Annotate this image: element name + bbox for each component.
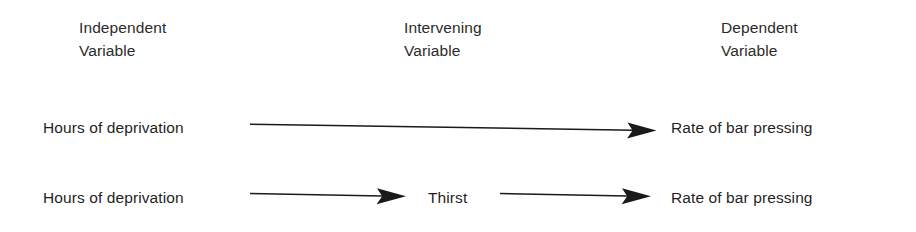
column-header-dependent-variable: Dependent Variable xyxy=(721,16,798,62)
arrow-head-icon xyxy=(627,122,657,138)
arrow-row2-intervening-to-dependent xyxy=(500,188,651,204)
row-2-intervening-variable-label: Thirst xyxy=(428,188,467,208)
column-header-line-1: Independent xyxy=(79,16,166,39)
column-header-line-1: Dependent xyxy=(721,16,798,39)
row-1-independent-variable-label: Hours of deprivation xyxy=(43,118,184,138)
arrow-row2-independent-to-intervening xyxy=(250,188,406,204)
arrow-row1-independent-to-dependent xyxy=(250,122,657,138)
arrow-shaft xyxy=(250,194,382,196)
row-1-dependent-variable-label: Rate of bar pressing xyxy=(671,118,813,138)
column-header-line-2: Variable xyxy=(404,39,482,62)
row-2-independent-variable-label: Hours of deprivation xyxy=(43,188,184,208)
column-header-line-2: Variable xyxy=(721,39,798,62)
row-2-dependent-variable-label: Rate of bar pressing xyxy=(671,188,813,208)
variable-relationship-diagram: Independent Variable Intervening Variabl… xyxy=(0,0,916,232)
column-header-independent-variable: Independent Variable xyxy=(79,16,166,62)
arrow-shaft xyxy=(250,124,634,130)
column-header-line-1: Intervening xyxy=(404,16,482,39)
arrow-head-icon xyxy=(377,188,406,204)
column-header-line-2: Variable xyxy=(79,39,166,62)
column-header-intervening-variable: Intervening Variable xyxy=(404,16,482,62)
arrow-head-icon xyxy=(622,188,651,204)
arrow-shaft xyxy=(500,194,627,196)
